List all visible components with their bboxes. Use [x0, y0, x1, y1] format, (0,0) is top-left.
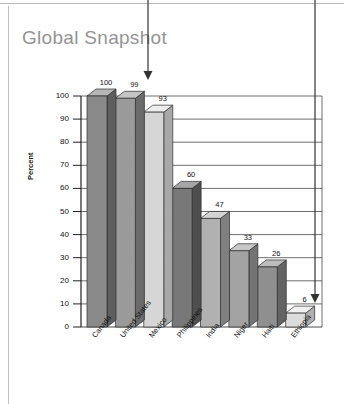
- bar-front-face: [144, 112, 164, 327]
- y-axis-tick-label: 60: [43, 183, 69, 192]
- y-axis-tick-label: 90: [43, 114, 69, 123]
- bar: [115, 91, 144, 327]
- bar-side-face: [221, 211, 230, 327]
- bar-value-label: 93: [149, 94, 177, 103]
- y-axis-tick-label: 100: [43, 91, 69, 100]
- bar-front-face: [257, 267, 277, 327]
- bar-side-face: [277, 260, 286, 327]
- bar-side-face: [164, 105, 173, 327]
- bar-value-label: 60: [177, 170, 205, 179]
- bar-front-face: [115, 98, 135, 327]
- bar-value-label: 100: [92, 78, 120, 87]
- y-axis-tick-label: 10: [43, 299, 69, 308]
- y-axis-tick-label: 80: [43, 137, 69, 146]
- y-axis-tick-label: 0: [43, 322, 69, 331]
- bar: [229, 244, 258, 327]
- bar-front-face: [229, 251, 249, 327]
- y-axis-tick-label: 20: [43, 276, 69, 285]
- y-axis-tick-label: 70: [43, 160, 69, 169]
- bar-value-label: 26: [262, 249, 290, 258]
- y-axis-tick-label: 30: [43, 253, 69, 262]
- bar-front-face: [172, 188, 192, 327]
- bar-value-label: 47: [206, 200, 234, 209]
- bar-value-label: 99: [120, 80, 148, 89]
- bar-side-face: [249, 244, 258, 327]
- bar: [87, 89, 116, 327]
- bar-value-label: 6: [291, 295, 319, 304]
- arrow-head-icon: [144, 71, 153, 80]
- bar-front-face: [87, 96, 107, 327]
- page-root: Global Snapshot 1009080706050403020100 E…: [0, 0, 344, 404]
- chart-bars: [87, 89, 315, 327]
- y-axis-title: Percent: [26, 152, 35, 180]
- chart-axes: [73, 96, 81, 327]
- bar-side-face: [107, 89, 116, 327]
- bar: [201, 211, 230, 327]
- top-callout-arrow: [144, 0, 153, 80]
- bar-value-label: 33: [234, 233, 262, 242]
- y-axis-tick-label: 40: [43, 230, 69, 239]
- bar: [257, 260, 286, 327]
- bar: [144, 105, 173, 327]
- y-axis-tick-label: 50: [43, 207, 69, 216]
- bar-chart: [0, 0, 344, 404]
- bar-side-face: [135, 91, 144, 327]
